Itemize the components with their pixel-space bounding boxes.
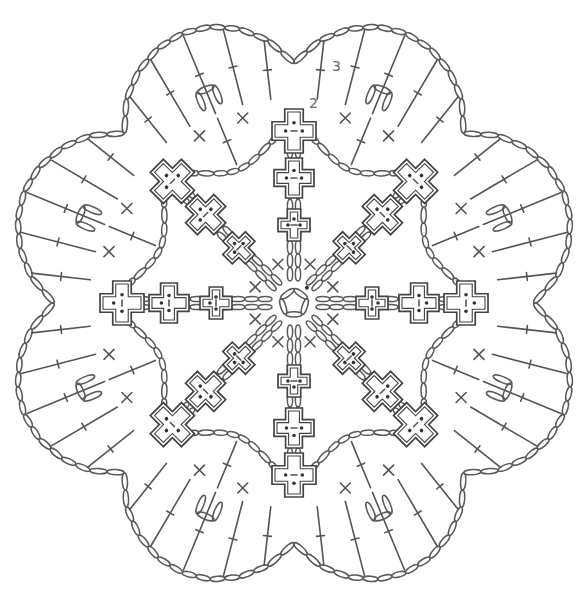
snowflake-arms	[100, 109, 488, 497]
cross-stitch-block	[149, 283, 189, 323]
cross-stitch-block	[444, 281, 488, 325]
cross-stitch-block	[356, 287, 388, 319]
cross-stitch-block	[216, 225, 261, 270]
cross-stitch-block	[278, 209, 310, 241]
cross-stitch-block	[278, 365, 310, 397]
cross-stitch-block	[274, 408, 314, 448]
cross-stitch-block	[272, 453, 316, 497]
cross-stitch-block	[274, 158, 314, 198]
center-ring	[278, 286, 310, 317]
cross-stitch-block	[216, 336, 261, 381]
round-label-2: 2	[309, 95, 318, 111]
cross-stitch-block	[100, 281, 144, 325]
cross-stitch-block	[200, 287, 232, 319]
crochet-snowflake-diagram	[0, 0, 588, 605]
outer-scalloped-edge	[15, 24, 573, 582]
cross-stitch-block	[399, 283, 439, 323]
cross-stitch-block	[327, 336, 372, 381]
cross-stitch-block	[327, 225, 372, 270]
cross-stitch-block	[272, 109, 316, 153]
round-label-3: 3	[332, 58, 341, 74]
